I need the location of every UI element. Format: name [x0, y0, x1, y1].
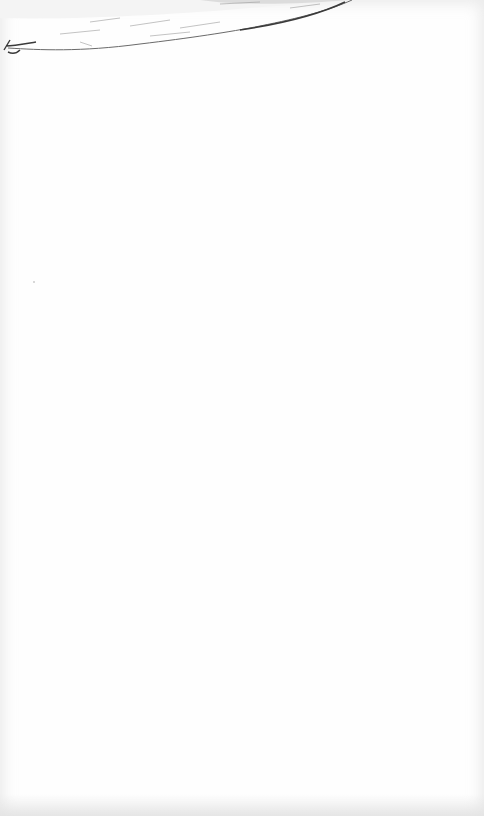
paper-edge-shadow	[0, 794, 484, 816]
paper-sheet	[0, 0, 484, 816]
sketch-fin	[4, 40, 36, 53]
paper-speck	[33, 281, 35, 283]
pencil-sketch	[0, 0, 484, 70]
